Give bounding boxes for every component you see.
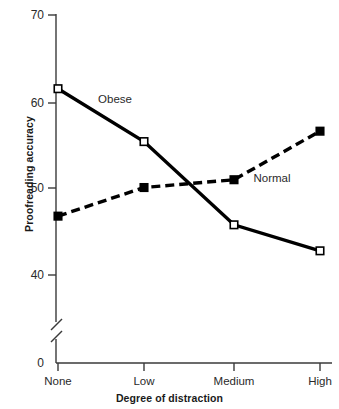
data-point-obese-low bbox=[140, 138, 148, 146]
y-axis-title: Proofreading accuracy bbox=[23, 84, 35, 264]
series-line-obese bbox=[58, 89, 320, 251]
data-point-normal-high bbox=[316, 127, 324, 135]
x-tick-label-low: Low bbox=[133, 375, 155, 387]
series-label-obese: Obese bbox=[98, 93, 132, 105]
data-point-normal-low bbox=[140, 184, 148, 192]
y-tick-label-70: 70 bbox=[31, 8, 45, 22]
x-tick-label-none: None bbox=[44, 375, 72, 387]
data-point-obese-high bbox=[316, 247, 324, 255]
data-point-normal-none bbox=[54, 212, 62, 220]
y-tick-label-40: 40 bbox=[31, 268, 45, 282]
series-layer bbox=[54, 85, 324, 255]
x-tick-label-high: High bbox=[308, 375, 332, 387]
data-point-obese-medium bbox=[230, 221, 238, 229]
series-label-normal: Normal bbox=[253, 172, 290, 184]
data-point-normal-medium bbox=[230, 176, 238, 184]
x-axis-title: Degree of distraction bbox=[0, 392, 339, 404]
data-point-obese-none bbox=[54, 85, 62, 93]
y-tick-label-0: 0 bbox=[37, 356, 44, 370]
x-tick-label-medium: Medium bbox=[214, 375, 255, 387]
chart-container: 70 60 50 40 0 None Low Medium High Obese… bbox=[0, 0, 339, 409]
chart-plot-area: 70 60 50 40 0 None Low Medium High Obese… bbox=[0, 0, 339, 409]
